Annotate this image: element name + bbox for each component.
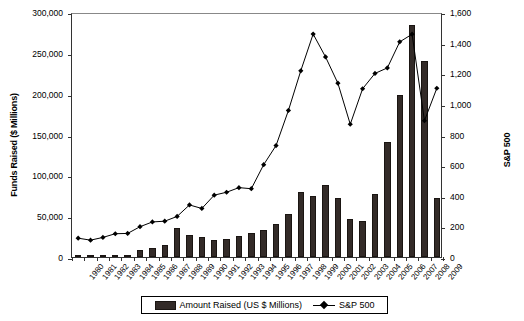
y-tick-label-left: 0 [3, 253, 63, 263]
sp500-marker [323, 54, 328, 59]
legend-item-sp500: S&P 500 [313, 300, 374, 310]
sp500-marker [298, 68, 303, 73]
sp500-marker [397, 39, 402, 44]
y-tick-label-right: 1,000 [450, 100, 510, 110]
y-tick-label-left: 150,000 [3, 131, 63, 141]
y-tick-label-left: 50,000 [3, 212, 63, 222]
x-tick [443, 257, 444, 261]
y-tick-label-right: 1,600 [450, 8, 510, 18]
legend-label-amount-raised: Amount Raised (US $ Millions) [180, 300, 303, 310]
plot-area: 050,000100,000150,000200,000250,000300,0… [71, 13, 442, 258]
sp500-marker [422, 118, 427, 123]
sp500-marker [113, 231, 118, 236]
sp500-marker [286, 108, 291, 113]
y-tick-label-right: 800 [450, 131, 510, 141]
sp500-marker [88, 238, 93, 243]
line-marker-swatch-icon [313, 302, 335, 309]
chart-legend: Amount Raised (US $ Millions) S&P 500 [141, 296, 388, 314]
legend-label-sp500: S&P 500 [339, 300, 374, 310]
y-tick-label-left: 100,000 [3, 171, 63, 181]
y-tick-label-left: 200,000 [3, 90, 63, 100]
sp500-marker [409, 32, 414, 37]
sp500-marker [76, 236, 81, 241]
y-tick-label-right: 1,200 [450, 69, 510, 79]
sp500-marker [236, 185, 241, 190]
y-tick-label-right: 0 [450, 253, 510, 263]
sp500-marker [150, 219, 155, 224]
sp500-marker [224, 190, 229, 195]
sp500-marker [335, 81, 340, 86]
sp500-marker [100, 235, 105, 240]
sp500-line [78, 34, 437, 240]
sp500-marker [385, 65, 390, 70]
sp500-marker [348, 122, 353, 127]
sp500-line-series [72, 14, 443, 259]
y-tick-label-left: 250,000 [3, 49, 63, 59]
sp500-marker [434, 86, 439, 91]
sp500-marker [261, 162, 266, 167]
sp500-marker [137, 224, 142, 229]
y-tick-label-right: 400 [450, 192, 510, 202]
y-axis-title-right: S&P 500 [502, 95, 512, 205]
y-tick-label-right: 600 [450, 161, 510, 171]
y-tick-label-right: 200 [450, 222, 510, 232]
y-tick-label-right: 1,400 [450, 39, 510, 49]
sp500-marker [125, 231, 130, 236]
legend-item-amount-raised: Amount Raised (US $ Millions) [155, 300, 303, 310]
bar-swatch-icon [155, 301, 176, 310]
sp500-marker [249, 186, 254, 191]
chart-figure: Funds Raised ($ Millions) S&P 500 050,00… [0, 0, 524, 321]
sp500-marker [273, 143, 278, 148]
sp500-marker [162, 219, 167, 224]
sp500-marker [311, 31, 316, 36]
y-tick-label-left: 300,000 [3, 8, 63, 18]
